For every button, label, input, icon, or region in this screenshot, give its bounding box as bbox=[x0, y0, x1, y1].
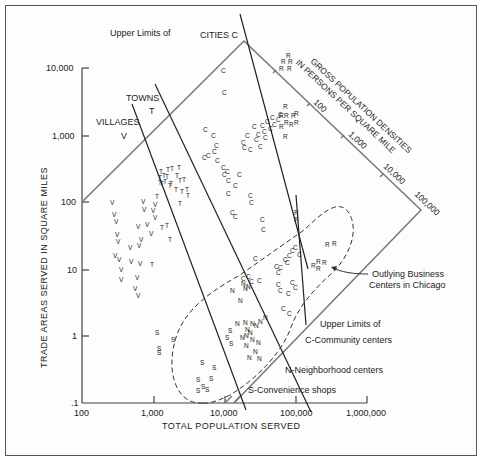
convenience-label: S-Convenience shops bbox=[248, 385, 337, 395]
y-axis bbox=[82, 68, 89, 403]
data-point: C bbox=[270, 114, 275, 121]
data-point: V bbox=[128, 244, 133, 251]
data-point: C bbox=[215, 157, 220, 164]
villages-letter: V bbox=[121, 131, 127, 141]
data-point: S bbox=[200, 359, 205, 366]
series-c: CCCCCCCCCCCCCCCCCCCCCCC bbox=[241, 216, 302, 317]
villages-label: VILLAGES bbox=[96, 117, 140, 127]
data-point: N bbox=[263, 314, 268, 321]
data-point: V bbox=[139, 236, 144, 243]
data-point: C bbox=[237, 171, 242, 178]
data-point: C bbox=[242, 144, 247, 151]
data-point: C bbox=[278, 264, 283, 271]
data-point: T bbox=[170, 165, 174, 172]
data-point: R bbox=[332, 240, 337, 247]
data-point: R bbox=[281, 58, 286, 65]
data-point: C bbox=[225, 168, 230, 175]
y-tick-0.1: .1 bbox=[71, 398, 79, 408]
data-point: S bbox=[229, 340, 234, 347]
data-point: V bbox=[115, 231, 120, 238]
data-point: R bbox=[288, 58, 293, 65]
cities-label: CITIES C bbox=[200, 30, 239, 40]
data-point: R bbox=[316, 258, 321, 265]
data-point: C bbox=[249, 199, 254, 206]
data-point: T bbox=[165, 222, 169, 229]
data-point: R bbox=[294, 119, 299, 126]
data-point: T bbox=[182, 176, 186, 183]
data-point: N bbox=[238, 297, 243, 304]
data-point: C bbox=[260, 216, 265, 223]
data-point: T bbox=[186, 192, 190, 199]
data-point: N bbox=[247, 354, 252, 361]
data-point: V bbox=[119, 276, 124, 283]
data-point: V bbox=[112, 211, 117, 218]
data-point: V bbox=[153, 201, 158, 208]
data-point: C bbox=[253, 255, 258, 262]
x-axis-label: TOTAL POPULATION SERVED bbox=[162, 421, 301, 431]
data-point: R bbox=[283, 133, 288, 140]
data-point: V bbox=[149, 230, 154, 237]
x-tick-1000: 1,000 bbox=[141, 408, 164, 418]
data-point: C bbox=[248, 146, 253, 153]
data-point: C bbox=[258, 143, 263, 150]
y-tick-1: 1 bbox=[72, 331, 77, 341]
community-label: C-Community centers bbox=[305, 335, 393, 345]
data-point: C bbox=[222, 89, 227, 96]
data-point: C bbox=[214, 142, 219, 149]
data-point: R bbox=[325, 241, 330, 248]
y-axis-label: TRADE AREAS SERVED IN SQUARE MILES bbox=[39, 167, 49, 368]
density-tick-1000: 1,000 bbox=[347, 129, 370, 151]
data-point: R bbox=[283, 103, 288, 110]
data-point: V bbox=[142, 206, 147, 213]
data-point: T bbox=[178, 200, 182, 207]
data-point: C bbox=[245, 132, 250, 139]
data-point: C bbox=[293, 284, 298, 291]
data-point: C bbox=[261, 226, 266, 233]
data-point: C bbox=[285, 259, 290, 266]
data-point: S bbox=[228, 327, 233, 334]
towns-label: TOWNS bbox=[126, 93, 159, 103]
density-tick-100: 100 bbox=[312, 97, 329, 114]
data-point: S bbox=[212, 364, 217, 371]
data-point: V bbox=[129, 258, 134, 265]
data-point: N bbox=[257, 355, 262, 362]
data-point: R bbox=[287, 65, 292, 72]
data-point: S bbox=[209, 375, 214, 382]
data-point: S bbox=[205, 386, 210, 393]
data-point: V bbox=[135, 274, 140, 281]
data-point: V bbox=[136, 223, 141, 230]
y-tick-10: 10 bbox=[67, 265, 77, 275]
upper-limits-bottom-label: Upper Limits of bbox=[320, 319, 381, 329]
data-point: C bbox=[226, 190, 231, 197]
data-point: S bbox=[155, 329, 160, 336]
data-point: V bbox=[153, 214, 158, 221]
data-point: C bbox=[256, 131, 261, 138]
x-tick-1000000: 1,000,000 bbox=[346, 408, 386, 418]
scatter-chart: 10,000 1,000 100 10 1 .1 100 1,000 10,00… bbox=[0, 0, 483, 464]
data-point: V bbox=[137, 242, 142, 249]
data-point: R bbox=[279, 65, 284, 72]
data-point: C bbox=[257, 277, 262, 284]
x-tick-100: 100 bbox=[74, 408, 89, 418]
y-tick-100: 100 bbox=[61, 197, 76, 207]
data-point: C bbox=[278, 287, 283, 294]
data-point: T bbox=[159, 168, 163, 175]
outlying-label-2: Centers in Chicago bbox=[369, 280, 446, 290]
data-point: C bbox=[211, 132, 216, 139]
data-point: T bbox=[168, 236, 172, 243]
data-point: C bbox=[263, 134, 268, 141]
villages-limit-line bbox=[132, 104, 246, 410]
data-point: T bbox=[177, 164, 181, 171]
data-point: S bbox=[196, 376, 201, 383]
data-point: S bbox=[171, 336, 176, 343]
data-point: C bbox=[233, 182, 238, 189]
data-points: VVVVVVVVVVVVVVVVVVVVVVVVVTTTTTTTTTTTTTTT… bbox=[110, 52, 337, 394]
data-point: V bbox=[117, 256, 122, 263]
series-s: SSSSSSSSSSSSSS bbox=[155, 327, 234, 394]
series-n: NNNNNNNNNNNNNNNNNNNNN bbox=[230, 280, 268, 362]
x-axis bbox=[82, 396, 367, 403]
data-point: N bbox=[243, 319, 248, 326]
data-point: C bbox=[297, 251, 302, 258]
data-point: T bbox=[168, 182, 172, 189]
data-point: T bbox=[175, 172, 179, 179]
